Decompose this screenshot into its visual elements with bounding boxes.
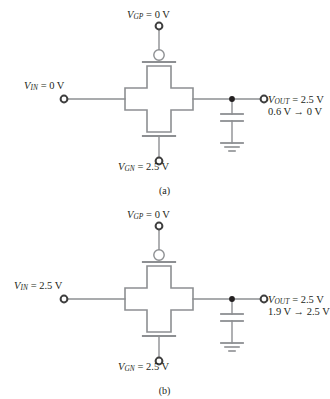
pmos-bubble-icon xyxy=(154,50,164,60)
terminal-input[interactable] xyxy=(61,296,68,303)
junction-dot-output xyxy=(229,296,235,302)
terminal-gate-p[interactable] xyxy=(156,223,163,230)
terminal-output[interactable] xyxy=(261,296,268,303)
pmos-bubble-icon xyxy=(154,250,164,260)
label-output-line2: 0.6 V → 0 V xyxy=(268,106,322,118)
transmission-gate-body xyxy=(125,66,193,132)
label-gate-p: VGP = 0 V xyxy=(127,9,170,23)
label-input: VIN = 2.5 V xyxy=(14,280,62,294)
label-output-line2: 1.9 V → 2.5 V xyxy=(268,306,330,318)
terminal-input[interactable] xyxy=(61,96,68,103)
label-gate-n: VGN = 2.5 V xyxy=(118,161,169,175)
terminal-output[interactable] xyxy=(261,96,268,103)
junction-dot-output xyxy=(229,96,235,102)
panel-caption-b: (b) xyxy=(0,385,329,396)
circuit-panel-b: VGP = 0 V VIN = 2.5 V VOUT = 2.5 V 1.9 V… xyxy=(0,200,329,399)
panel-caption-a: (a) xyxy=(0,185,329,196)
label-gate-n: VGN = 2.5 V xyxy=(118,361,169,375)
transmission-gate-body xyxy=(125,266,193,332)
label-input: VIN = 0 V xyxy=(24,80,64,94)
terminal-gate-p[interactable] xyxy=(156,23,163,30)
circuit-panel-a: VGP = 0 V VIN = 0 V VOUT = 2.5 V 0.6 V →… xyxy=(0,0,329,199)
label-gate-p: VGP = 0 V xyxy=(127,209,170,223)
